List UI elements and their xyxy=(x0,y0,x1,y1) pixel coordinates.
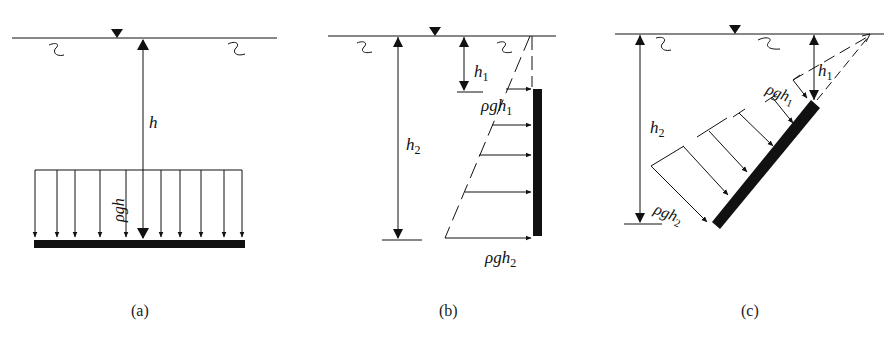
arrow-up-icon xyxy=(137,39,149,50)
panel-a xyxy=(12,29,277,248)
caption-b: (b) xyxy=(439,302,458,320)
horizontal-plate xyxy=(34,240,245,248)
wave-squiggle-icon xyxy=(497,42,512,53)
pressure-label-rhogh1: ρgh1 xyxy=(762,80,797,110)
pressure-label-rhogh2: ρgh2 xyxy=(650,200,685,230)
arrow-down-icon xyxy=(635,213,645,223)
pressure-label-rhogh: ρgh xyxy=(110,198,128,223)
arrow-down-icon xyxy=(393,229,403,239)
arrow-up-icon xyxy=(635,35,645,45)
free-surface-triangle-icon xyxy=(729,25,741,34)
pressure-label-rhogh2: ρgh2 xyxy=(484,248,516,270)
caption-a: (a) xyxy=(131,302,149,320)
arrow-down-icon xyxy=(809,90,819,100)
vertical-plate xyxy=(533,89,542,236)
wave-squiggle-icon xyxy=(49,44,64,56)
inclined-plate xyxy=(712,100,820,229)
arrow-up-icon xyxy=(809,35,819,45)
wave-squiggle-icon xyxy=(758,38,780,49)
free-surface-triangle-icon xyxy=(111,29,123,38)
free-surface-triangle-icon xyxy=(429,27,441,36)
depth-label-h2: h2 xyxy=(650,118,665,140)
panel-b xyxy=(328,27,556,240)
wave-squiggle-icon xyxy=(656,37,671,50)
depth-label-h: h xyxy=(149,113,158,132)
caption-c: (c) xyxy=(741,302,759,320)
wave-squiggle-icon xyxy=(228,42,245,55)
arrow-up-icon xyxy=(393,37,403,47)
pressure-label-rhogh1: ρgh1 xyxy=(480,96,512,118)
hydrostatic-pressure-figure: h ρgh (a) h1 ρgh1 h2 ρgh2 (b) xyxy=(0,0,894,338)
arrow-down-icon xyxy=(459,81,469,91)
depth-label-h1: h1 xyxy=(474,62,489,84)
depth-label-h2: h2 xyxy=(406,135,421,157)
arrow-tip-icon xyxy=(862,34,870,42)
arrow-up-icon xyxy=(459,37,469,47)
pressure-arrows xyxy=(35,170,242,237)
arrow-down-icon xyxy=(137,228,149,239)
depth-label-h1: h1 xyxy=(818,61,833,83)
pressure-envelope-dashed xyxy=(445,36,530,238)
wave-squiggle-icon xyxy=(357,42,372,53)
